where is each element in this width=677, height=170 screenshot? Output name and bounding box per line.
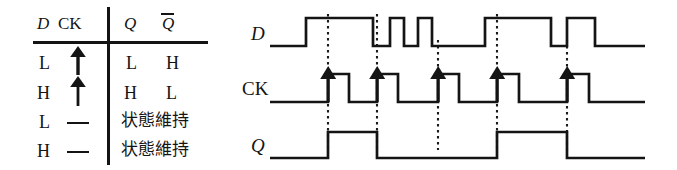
clock-edge-arrow-icon [320,66,336,102]
waveform-label-q: Q [251,136,265,155]
clock-edge-arrow-icon [430,66,446,102]
header-d: D [37,15,49,32]
row-2-hold-text: 状態維持 [121,112,189,129]
clock-edge-arrow-icon [559,66,575,102]
edge-guide-lines [328,14,567,150]
dash-icon [67,122,89,124]
header-q: Q [124,15,136,32]
timing-diagram: D CK Q [240,0,677,170]
row-1-d: H [37,84,50,102]
clock-edge-arrows [320,66,575,102]
truth-table: D CK Q Q L L H H H L L 状態維持 [0,0,240,170]
row-0-d: L [39,54,50,72]
header-qbar: Q [162,13,174,32]
row-0-qbar: H [166,54,179,72]
rising-edge-arrow-icon [68,46,88,76]
header-qbar-text: Q [162,13,174,32]
row-0-q: L [126,54,137,72]
rising-edge-arrow-icon [68,76,88,106]
dash-icon [67,151,89,153]
row-3-hold-text: 状態維持 [121,141,189,158]
waveform-trace-d [270,18,645,46]
row-1-q: H [124,84,137,102]
clock-edge-arrow-icon [489,66,505,102]
waveform-label-d: D [251,24,265,43]
dff-figure: D CK Q Q L L H H H L L 状態維持 [0,0,677,170]
header-ck: CK [58,15,82,32]
row-2-d: L [39,113,50,131]
row-3-d: H [37,142,50,160]
waveform-label-ck: CK [242,79,268,98]
waveform-trace-q [270,132,645,158]
table-column-divider [107,7,110,165]
timing-waveform-svg [240,0,677,170]
clock-edge-arrow-icon [369,66,385,102]
row-1-qbar: L [166,84,177,102]
table-header-rule [33,41,208,44]
